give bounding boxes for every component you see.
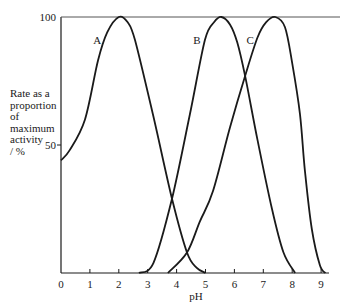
curve-label-c: C: [247, 34, 254, 46]
x-tick-label: 1: [87, 278, 93, 290]
x-axis-label: pH: [189, 290, 203, 302]
axes: [61, 17, 340, 273]
curves: [61, 17, 325, 273]
x-tick-label: 8: [289, 278, 295, 290]
y-axis-label-line: / %: [10, 146, 56, 158]
curve-label-a: A: [93, 34, 101, 46]
curve-labels: ABC: [93, 34, 254, 46]
y-axis-label: Rate as aproportionofmaximumactivity/ %: [10, 88, 56, 158]
curve-c: [168, 17, 326, 273]
y-axis-label-line: Rate as a: [10, 88, 56, 100]
y-tick-label: 100: [40, 11, 57, 23]
curve-label-b: B: [193, 34, 200, 46]
x-tick-label: 5: [203, 278, 209, 290]
curve-b: [139, 17, 295, 273]
x-tick-label: 4: [174, 278, 180, 290]
x-tick-label: 6: [232, 278, 238, 290]
x-tick-label: 9: [318, 278, 324, 290]
x-tick-label: 7: [261, 278, 267, 290]
x-tick-label: 3: [145, 278, 151, 290]
x-tick-label: 0: [58, 278, 64, 290]
x-tick-label: 2: [116, 278, 122, 290]
